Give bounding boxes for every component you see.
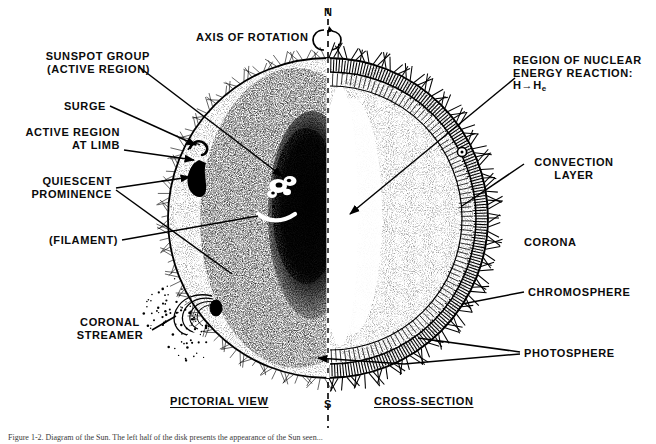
label-chromosphere: CHROMOSPHERE [528,286,631,299]
label-convection-layer: CONVECTION LAYER [522,156,626,181]
label-filament: (FILAMENT) [0,234,118,247]
label-surge: SURGE [0,100,106,113]
title-cross-section: CROSS-SECTION [374,395,473,408]
label-photosphere: PHOTOSPHERE [524,347,615,360]
title-pictorial-view: PICTORIAL VIEW [170,395,268,408]
label-axis-of-rotation: AXIS OF ROTATION [196,31,308,44]
leader-photosphere-1 [418,338,520,352]
leader-surge [110,106,196,145]
solar-structure-figure: SUNSPOT GROUP (ACTIVE REGION) SURGE ACTI… [0,0,656,444]
label-sunspot-group: SUNSPOT GROUP (ACTIVE REGION) [0,50,150,75]
label-nuclear-energy-region: REGION OF NUCLEAR ENERGY REACTION: H→He [513,54,653,96]
label-active-region-at-limb: ACTIVE REGION AT LIMB [0,126,120,151]
label-corona: CORONA [524,236,577,249]
label-south-pole: S [324,398,331,410]
figure-caption: Figure 1-2. Diagram of the Sun. The left… [8,433,648,444]
limb-granule-feature [457,147,466,156]
label-quiescent-prominence: QUIESCENT PROMINENCE [0,175,112,200]
label-north-pole: N [324,6,332,18]
rotation-arrow-icon [313,26,341,50]
label-coronal-streamer: CORONAL STREAMER [62,316,158,341]
nuclear-reaction-formula: H→He [513,79,645,96]
